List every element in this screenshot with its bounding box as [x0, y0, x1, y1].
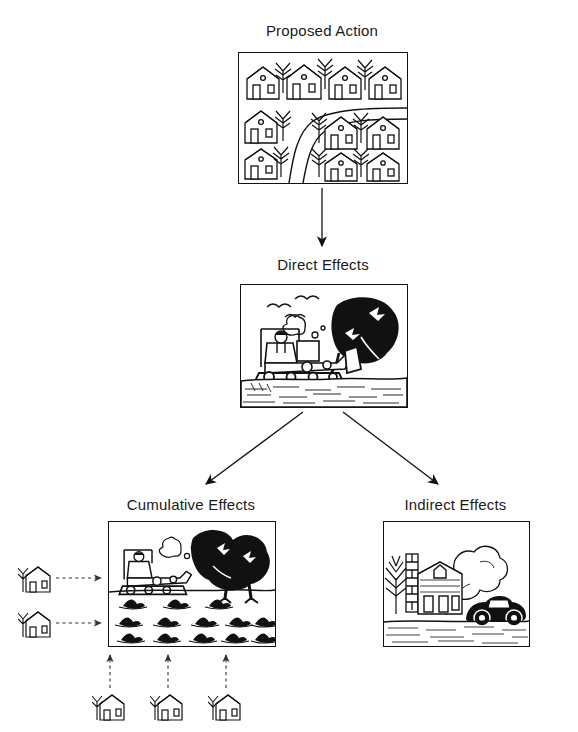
contributor-house-left-2 [18, 607, 56, 643]
contributor-house-left-1 [18, 562, 56, 598]
diagram-canvas: Proposed Action [0, 0, 578, 732]
arrow-direct-to-cumulative [206, 412, 303, 484]
panel-cumulative-effects [108, 521, 276, 647]
label-indirect-effects: Indirect Effects [383, 496, 528, 513]
arrow-direct-to-indirect [343, 412, 438, 484]
label-cumulative-effects: Cumulative Effects [108, 496, 274, 513]
label-proposed-action: Proposed Action [238, 22, 406, 39]
contributor-house-bottom-2 [150, 690, 188, 726]
panel-direct-effects [240, 284, 408, 408]
ground [241, 378, 407, 407]
contributor-house-bottom-3 [208, 690, 246, 726]
panel-indirect-effects [383, 521, 530, 647]
contributor-house-bottom-1 [92, 690, 130, 726]
label-direct-effects: Direct Effects [240, 256, 406, 273]
panel-proposed-action [238, 52, 408, 184]
